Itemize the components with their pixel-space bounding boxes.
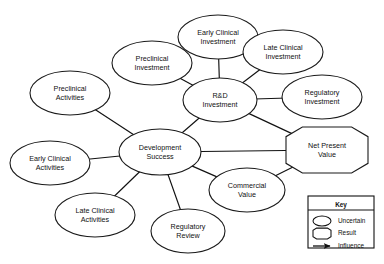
node-label-line1: Commercial [228, 181, 267, 190]
node-label-line1: Development [139, 143, 181, 152]
node-label-line1: Late Clinical [263, 43, 303, 52]
node-late_clinical_investment[interactable]: Late ClinicalInvestment [243, 30, 323, 74]
node-label-line1: R&D [212, 91, 227, 100]
node-net_present_value[interactable]: Net PresentValue [286, 127, 368, 173]
node-label-line1: Regulatory [171, 222, 206, 231]
node-label-line2: Investment [202, 100, 237, 109]
node-label-line2: Value [238, 190, 256, 199]
node-label-line2: Success [146, 152, 174, 161]
node-regulatory_investment[interactable]: RegulatoryInvestment [282, 75, 362, 119]
influence-diagram: PreclinicalActivitiesEarly ClinicalActiv… [0, 0, 384, 264]
node-label-line2: Value [318, 150, 336, 159]
legend-title: Key [335, 201, 347, 209]
node-label-line1: Regulatory [305, 88, 340, 97]
legend-item-label: Uncertain [338, 217, 366, 224]
legend: KeyUncertainResultInfluence [308, 196, 374, 249]
node-rd_investment[interactable]: R&DInvestment [183, 78, 257, 122]
node-label-line2: Review [176, 231, 200, 240]
node-label-line1: Early Clinical [29, 154, 71, 163]
node-preclinical_activities[interactable]: PreclinicalActivities [30, 71, 110, 115]
node-preclinical_investment[interactable]: PreclinicalInvestment [112, 41, 192, 85]
node-label-line1: Net Present [308, 141, 346, 150]
node-regulatory_review[interactable]: RegulatoryReview [151, 209, 225, 253]
node-label-line2: Investment [134, 63, 169, 72]
node-label-line1: Early Clinical [197, 28, 239, 37]
node-label-line2: Investment [200, 37, 235, 46]
node-label-line2: Activities [81, 215, 110, 224]
node-late_clinical_activities[interactable]: Late ClinicalActivities [55, 193, 135, 237]
node-development_success[interactable]: DevelopmentSuccess [119, 129, 201, 175]
diagram-canvas: PreclinicalActivitiesEarly ClinicalActiv… [0, 0, 384, 264]
legend-item-label: Influence [338, 242, 364, 249]
node-label-line2: Investment [265, 52, 300, 61]
node-early_clinical_activities[interactable]: Early ClinicalActivities [10, 141, 90, 185]
node-label-line1: Preclinical [136, 54, 169, 63]
node-label-line2: Investment [304, 97, 339, 106]
octagon-icon [313, 228, 331, 239]
node-commercial_value[interactable]: CommercialValue [209, 168, 285, 212]
legend-item-label: Result [338, 229, 356, 236]
ellipse-icon [313, 216, 331, 226]
node-label-line1: Preclinical [54, 84, 87, 93]
node-label-line2: Activities [36, 163, 65, 172]
node-label-line1: Late Clinical [75, 206, 115, 215]
node-label-line2: Activities [56, 93, 85, 102]
